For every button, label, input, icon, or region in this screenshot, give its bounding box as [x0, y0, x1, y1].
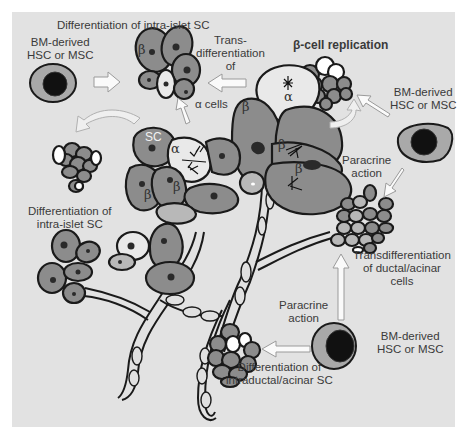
label-line: Trans-: [196, 34, 265, 47]
islet-cluster-icon: [131, 23, 200, 99]
top-right-source-label: BM-derived HSC or MSC: [390, 86, 456, 112]
label-line: Transdifferentiation: [353, 249, 451, 262]
label-line: Paracrine: [279, 299, 328, 312]
top-left-source-label: BM-derived HSC or MSC: [27, 36, 93, 62]
label-line: BM-derived: [390, 86, 456, 99]
intraductal-label: Differentiation of intraductal/acinar SC: [226, 361, 333, 387]
label-line: BM-derived: [27, 36, 93, 49]
label-line: HSC or MSC: [377, 343, 443, 356]
top-title-label: Differentiation of intra-islet SC: [57, 19, 210, 32]
label-line: HSC or MSC: [27, 49, 93, 62]
label-line: BM-derived: [377, 330, 443, 343]
beta-cell-label: β: [242, 100, 250, 113]
label-line: intraductal/acinar SC: [226, 374, 333, 387]
label-line: HSC or MSC: [390, 99, 456, 112]
beta-cell-label: β: [138, 43, 146, 56]
left-intra-islet-label: Differentiation of intra-islet SC: [28, 205, 112, 231]
beta-cell-label: β: [173, 180, 181, 193]
label-line: Paracrine: [342, 154, 391, 167]
transdiff-alpha-label: Trans- differentiation of: [196, 34, 265, 73]
paracrine-upper-label: Paracrine action: [342, 154, 391, 180]
beta-cell-label: β: [144, 188, 152, 201]
label-line: differentiation: [196, 47, 265, 60]
bottom-right-source-label: BM-derived HSC or MSC: [377, 330, 443, 356]
islet-cluster-icon: [126, 128, 240, 224]
label-line: action: [279, 312, 328, 325]
label-line: Differentiation of: [226, 361, 333, 374]
label-line: action: [342, 167, 391, 180]
label-line: of ductal/acinar: [353, 262, 451, 275]
alpha-cell-label: α: [171, 142, 180, 155]
alpha-cells-label: α cells: [195, 98, 228, 111]
beta-cell-label: β: [278, 138, 286, 151]
alpha-cell-label: α: [284, 90, 293, 103]
beta-replication-label: β-cell replication: [293, 39, 388, 52]
label-line: of: [196, 60, 265, 73]
islet-cluster-icon: [109, 224, 194, 294]
stem-cell-label: SC: [145, 131, 162, 144]
beta-cell-label: β: [295, 162, 303, 175]
hsc-msc-cell-icon: [30, 64, 76, 102]
label-line: cells: [353, 275, 451, 288]
paracrine-lower-label: Paracrine action: [279, 299, 328, 325]
islet-cluster-icon: [53, 143, 101, 192]
islet-cluster-icon: [38, 230, 103, 303]
label-line: Differentiation of: [28, 205, 112, 218]
label-line: intra-islet SC: [28, 218, 112, 231]
hsc-msc-cell-icon: [398, 124, 452, 162]
transdiff-ductal-label: Transdifferentiation of ductal/acinar ce…: [353, 249, 451, 288]
